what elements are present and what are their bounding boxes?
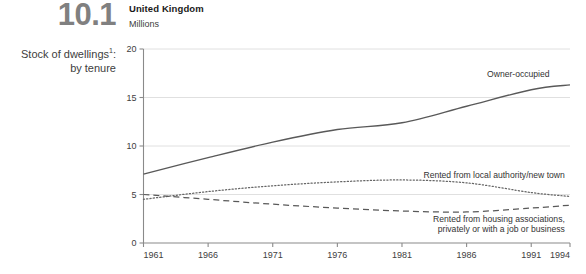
y-axis-tick-label: 10 (126, 141, 136, 151)
series-line (144, 85, 571, 174)
x-axis-tick-label: 1966 (198, 250, 218, 260)
y-axis-tick-label: 20 (126, 44, 136, 54)
data-series-group (144, 85, 571, 212)
x-axis-tick-label: 1994 (550, 250, 570, 260)
figure-title-line2: by tenure (70, 62, 116, 74)
figure-number: 10.1 (58, 0, 116, 32)
x-axis-tick-label: 1991 (521, 250, 541, 260)
y-axis-tick-label: 15 (126, 93, 136, 103)
series-label: privately or with a job or business (438, 224, 565, 234)
x-axis-ticks-group (144, 243, 571, 247)
series-label: Owner-occupied (487, 69, 550, 79)
figure-caption-column: 10.1 Stock of dwellings1: by tenure (0, 0, 122, 274)
figure-title-line1: Stock of dwellings (21, 48, 109, 60)
page-title: Stock of dwellings1: by tenure (4, 48, 116, 75)
y-axis-ticks-group (140, 49, 144, 243)
x-axis-tick-label: 1961 (144, 250, 164, 260)
y-axis-tick-labels: 05101520 (126, 44, 136, 248)
x-axis-tick-label: 1981 (392, 250, 412, 260)
series-line (144, 195, 571, 213)
x-axis-tick-label: 1971 (263, 250, 283, 260)
series-annotations-group: Owner-occupiedRented from local authorit… (423, 69, 565, 234)
series-label: Rented from housing associations, (433, 214, 565, 224)
y-axis-tick-label: 0 (131, 238, 136, 248)
x-axis-tick-label: 1986 (457, 250, 477, 260)
x-axis-tick-labels: 19611966197119761981198619911994 (144, 250, 571, 260)
figure-title-colon: : (113, 48, 116, 60)
series-label: Rented from local authority/new town (423, 170, 565, 180)
y-axis-tick-label: 5 (131, 190, 136, 200)
chart-panel: United Kingdom Millions 05101520 1961196… (122, 0, 586, 274)
series-line (144, 180, 571, 199)
line-chart: 05101520 1961196619711976198119861991199… (122, 0, 586, 274)
x-axis-tick-label: 1976 (327, 250, 347, 260)
